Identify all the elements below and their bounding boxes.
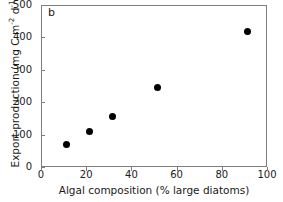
y-tick-label: 300 <box>13 65 32 75</box>
x-tick-mark <box>86 167 87 171</box>
x-tick-label: 0 <box>26 170 56 180</box>
x-axis-title: Algal composition (% large diatoms) <box>41 184 267 196</box>
y-tick-mark <box>41 135 45 136</box>
y-tick-label: 400 <box>13 32 32 42</box>
data-point <box>244 28 251 35</box>
y-tick-label: 200 <box>13 97 32 107</box>
plot-area: b <box>41 5 267 167</box>
data-point <box>154 84 161 91</box>
panel-label: b <box>48 7 55 19</box>
data-point <box>86 128 93 135</box>
figure-panel-b: Export production (mg C m-2 d-1) 0100200… <box>0 0 283 202</box>
x-tick-mark <box>131 167 132 171</box>
y-tick-mark <box>41 102 45 103</box>
y-tick-mark <box>41 5 45 6</box>
data-point <box>63 141 70 148</box>
x-tick-label: 40 <box>116 170 146 180</box>
x-tick-label: 80 <box>207 170 237 180</box>
x-tick-mark <box>177 167 178 171</box>
y-tick-label: 100 <box>13 130 32 140</box>
y-tick-label: 500 <box>13 0 32 10</box>
data-point <box>109 113 116 120</box>
x-tick-mark <box>222 167 223 171</box>
x-tick-label: 100 <box>252 170 282 180</box>
y-tick-mark <box>41 37 45 38</box>
y-tick-mark <box>41 167 45 168</box>
y-tick-mark <box>41 70 45 71</box>
x-tick-mark <box>267 167 268 171</box>
x-tick-label: 20 <box>71 170 101 180</box>
x-tick-label: 60 <box>162 170 192 180</box>
